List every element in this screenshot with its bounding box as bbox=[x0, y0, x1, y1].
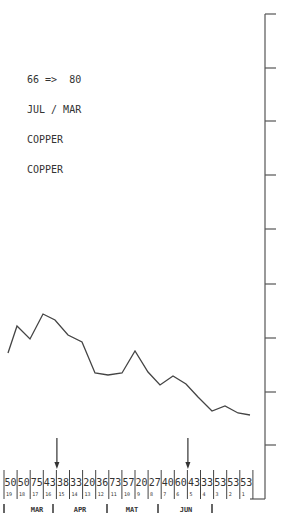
table-index: 18 bbox=[19, 491, 25, 497]
table-index: 19 bbox=[6, 491, 12, 497]
data-table: 5050754338332036735720274060433353535319… bbox=[4, 470, 253, 499]
table-value: 75 bbox=[31, 477, 43, 488]
table-value: 53 bbox=[227, 477, 239, 488]
legend-line-2: JUL / MAR bbox=[27, 105, 81, 115]
table-value: 36 bbox=[96, 477, 108, 488]
table-value: 38 bbox=[57, 477, 69, 488]
table-value: 43 bbox=[188, 477, 200, 488]
table-index: 8 bbox=[150, 491, 153, 497]
right-axis bbox=[250, 14, 276, 499]
month-label: APR bbox=[74, 506, 87, 514]
table-index: 4 bbox=[203, 491, 206, 497]
month-label: MAT bbox=[126, 506, 139, 514]
table-index: 16 bbox=[45, 491, 51, 497]
table-index: 6 bbox=[176, 491, 179, 497]
table-index: 9 bbox=[137, 491, 140, 497]
table-index: 5 bbox=[189, 491, 192, 497]
legend-line-4: COPPER bbox=[27, 165, 81, 175]
legend: 66 => 80 JUL / MAR COPPER COPPER bbox=[27, 55, 81, 185]
price-line bbox=[8, 314, 250, 415]
table-value: 33 bbox=[70, 477, 82, 488]
table-index: 15 bbox=[58, 491, 64, 497]
table-index: 13 bbox=[85, 491, 91, 497]
table-value: 73 bbox=[109, 477, 121, 488]
arrow-markers bbox=[54, 438, 190, 469]
table-value: 20 bbox=[136, 477, 148, 488]
month-labels: MARAPRMATJUN bbox=[4, 504, 212, 514]
table-value: 50 bbox=[18, 477, 30, 488]
legend-line-3: COPPER bbox=[27, 135, 81, 145]
table-index: 11 bbox=[111, 491, 117, 497]
table-index: 12 bbox=[98, 491, 104, 497]
legend-line-1: 66 => 80 bbox=[27, 75, 81, 85]
table-index: 10 bbox=[124, 491, 130, 497]
table-index: 7 bbox=[163, 491, 166, 497]
table-value: 50 bbox=[5, 477, 17, 488]
table-value: 20 bbox=[83, 477, 95, 488]
table-value: 60 bbox=[175, 477, 187, 488]
table-index: 17 bbox=[32, 491, 38, 497]
table-index: 14 bbox=[72, 491, 78, 497]
table-value: 33 bbox=[201, 477, 213, 488]
table-index: 2 bbox=[229, 491, 232, 497]
table-index: 1 bbox=[242, 491, 245, 497]
table-value: 40 bbox=[162, 477, 174, 488]
table-value: 57 bbox=[122, 477, 134, 488]
table-value: 53 bbox=[240, 477, 252, 488]
table-value: 53 bbox=[214, 477, 226, 488]
table-value: 43 bbox=[44, 477, 56, 488]
table-index: 3 bbox=[216, 491, 219, 497]
table-value: 27 bbox=[149, 477, 161, 488]
month-label: JUN bbox=[180, 506, 193, 514]
month-label: MAR bbox=[31, 506, 44, 514]
